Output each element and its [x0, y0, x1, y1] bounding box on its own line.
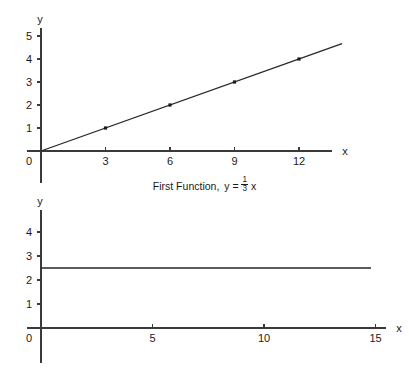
y-tick-label: 2 [26, 274, 32, 286]
second-function-plot: yx0123451015 [0, 196, 409, 379]
first-caption-prefix: First Function, [153, 180, 220, 192]
origin-label: 0 [26, 332, 32, 344]
first-caption-variable: y [224, 180, 229, 192]
y-tick-label: 1 [26, 122, 32, 134]
x-tick-label: 10 [258, 332, 270, 344]
x-tick-label: 9 [231, 155, 237, 167]
first-function-series [41, 44, 342, 151]
y-axis-label: y [37, 196, 43, 207]
series-line [41, 44, 342, 151]
first-function-axes [27, 28, 332, 183]
data-point-marker [168, 103, 171, 106]
y-tick-label: 3 [26, 76, 32, 88]
x-tick-label: 6 [167, 155, 173, 167]
y-tick-label: 2 [26, 99, 32, 111]
second-function-tick-labels: yx0123451015 [26, 196, 402, 344]
second-function-axes [27, 210, 386, 363]
x-tick-label: 12 [293, 155, 305, 167]
y-tick-label: 4 [26, 53, 32, 65]
first-function-caption: First Function, y = 13 x [0, 175, 409, 192]
chart-second-function: yx0123451015 Second Function, y = 212 [0, 196, 409, 379]
data-point-marker [233, 80, 236, 83]
data-point-marker [297, 57, 300, 60]
origin-label: 0 [26, 155, 32, 167]
y-tick-label: 3 [26, 250, 32, 262]
y-tick-label: 5 [26, 30, 32, 42]
x-axis-label: x [342, 145, 348, 157]
x-axis-label: x [396, 322, 402, 334]
second-function-ticks [37, 232, 376, 328]
data-point-marker [104, 126, 107, 129]
first-caption-equals: = [232, 180, 238, 192]
x-tick-label: 5 [149, 332, 155, 344]
x-tick-label: 15 [369, 332, 381, 344]
y-tick-label: 4 [26, 226, 32, 238]
first-function-ticks [37, 36, 299, 151]
first-caption-suffix: x [251, 180, 256, 192]
first-function-plot: yx01234536912 [0, 0, 409, 196]
y-axis-label: y [37, 13, 43, 25]
first-function-tick-labels: yx01234536912 [26, 13, 348, 167]
y-tick-label: 1 [26, 298, 32, 310]
figure-root: yx01234536912 First Function, y = 13 x y… [0, 0, 409, 379]
chart-first-function: yx01234536912 First Function, y = 13 x [0, 0, 409, 196]
x-tick-label: 3 [102, 155, 108, 167]
first-caption-fraction: 13 [241, 176, 248, 193]
first-caption-denominator: 3 [241, 185, 248, 193]
